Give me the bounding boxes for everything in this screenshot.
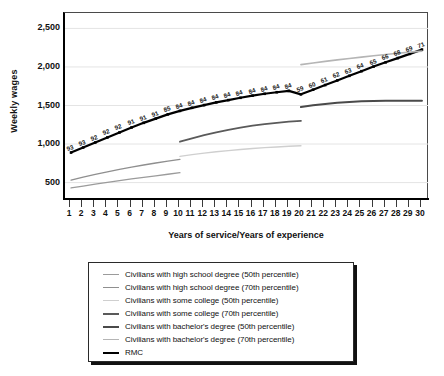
chart-figure: Weekly wages 5001,0001,5002,0002,500 939… — [0, 0, 444, 376]
legend-label: Civilians with high school degree (50th … — [125, 270, 299, 279]
x-tick-label: 2 — [79, 208, 84, 218]
x-tick-mark — [372, 200, 373, 207]
x-tick-label: 11 — [186, 208, 195, 218]
x-tick-mark — [347, 200, 348, 207]
legend-label: Civilians with high school degree (70th … — [125, 283, 299, 292]
legend-item[interactable]: Civilians with high school degree (70th … — [89, 281, 353, 294]
series-marker — [215, 101, 218, 104]
series-line — [71, 173, 180, 188]
x-tick-mark — [154, 200, 155, 207]
series-marker — [300, 93, 303, 96]
x-tick-label: 24 — [343, 208, 352, 218]
x-tick-mark — [202, 200, 203, 207]
series-marker — [360, 70, 363, 73]
x-tick-label: 19 — [282, 208, 291, 218]
legend-item[interactable]: Civilians with high school degree (50th … — [89, 268, 353, 281]
series-marker — [251, 94, 254, 97]
legend-item[interactable]: Civilians with bachelor's degree (70th p… — [89, 333, 353, 346]
x-tick-mark — [384, 200, 385, 207]
legend-item[interactable]: Civilians with some college (70th percen… — [89, 307, 353, 320]
series-marker — [312, 88, 315, 91]
x-tick-mark — [396, 200, 397, 207]
legend-label: RMC — [125, 348, 143, 357]
legend-label: Civilians with bachelor's degree (50th p… — [125, 322, 294, 331]
x-tick-mark — [408, 200, 409, 207]
series-marker — [324, 84, 327, 87]
plot-area: 9393929292919191858484848484848484848459… — [63, 12, 428, 198]
x-tick-mark — [117, 200, 118, 207]
legend-item[interactable]: Civilians with some college (50th percen… — [89, 294, 353, 307]
x-tick-label: 21 — [306, 208, 315, 218]
x-tick-mark — [93, 200, 94, 207]
x-tick-mark — [214, 200, 215, 207]
series-marker — [179, 110, 182, 113]
x-tick-label: 7 — [139, 208, 144, 218]
x-tick-label: 18 — [270, 208, 279, 218]
series-marker — [396, 57, 399, 60]
x-axis-tick-labels: 1234567891011121314151617181920212223242… — [63, 208, 429, 222]
x-tick-label: 14 — [222, 208, 231, 218]
series-marker — [191, 107, 194, 110]
x-tick-mark — [275, 200, 276, 207]
legend-item[interactable]: Civilians with bachelor's degree (50th p… — [89, 320, 353, 333]
x-tick-label: 26 — [367, 208, 376, 218]
legend-label: Civilians with some college (50th percen… — [125, 296, 278, 305]
x-tick-label: 13 — [210, 208, 219, 218]
x-tick-label: 28 — [391, 208, 400, 218]
series-marker — [130, 126, 133, 129]
y-tick-label: 1,000 — [14, 138, 60, 148]
legend-item[interactable]: RMC — [89, 346, 353, 359]
x-tick-mark — [238, 200, 239, 207]
x-tick-label: 29 — [403, 208, 412, 218]
x-tick-label: 8 — [151, 208, 156, 218]
data-point-label: 65 — [368, 57, 377, 66]
x-tick-mark — [251, 200, 252, 207]
data-point-label: 84 — [247, 86, 256, 95]
x-tick-mark — [299, 200, 300, 207]
series-svg — [65, 13, 428, 198]
x-tick-label: 6 — [127, 208, 132, 218]
x-tick-mark — [263, 200, 264, 207]
x-tick-mark — [287, 200, 288, 207]
legend-line-icon — [103, 339, 119, 340]
x-tick-label: 25 — [355, 208, 364, 218]
legend-label: Civilians with some college (70th percen… — [125, 309, 278, 318]
x-tick-label: 30 — [415, 208, 424, 218]
series-line — [180, 121, 301, 142]
x-tick-label: 12 — [197, 208, 206, 218]
x-tick-label: 20 — [294, 208, 303, 218]
series-marker — [288, 90, 291, 93]
x-tick-label: 23 — [331, 208, 340, 218]
x-tick-label: 1 — [67, 208, 72, 218]
x-tick-mark — [130, 200, 131, 207]
series-line — [180, 146, 301, 157]
x-tick-label: 22 — [318, 208, 327, 218]
series-marker — [348, 75, 351, 78]
chart-legend: Civilians with high school degree (50th … — [88, 262, 354, 362]
x-tick-mark — [190, 200, 191, 207]
legend-line-icon — [103, 274, 119, 275]
x-tick-mark — [311, 200, 312, 207]
series-marker — [263, 92, 266, 95]
legend-line-icon — [103, 287, 119, 288]
x-tick-label: 4 — [103, 208, 108, 218]
y-tick-label: 2,500 — [14, 22, 60, 32]
series-marker — [94, 141, 97, 144]
x-axis-tick-marks — [63, 200, 429, 208]
series-marker — [384, 61, 387, 64]
x-tick-mark — [81, 200, 82, 207]
series-line — [71, 159, 180, 180]
y-axis-tick-labels: 5001,0001,5002,0002,500 — [14, 12, 60, 198]
x-tick-label: 10 — [173, 208, 182, 218]
x-tick-mark — [69, 200, 70, 207]
x-tick-mark — [359, 200, 360, 207]
x-tick-label: 16 — [246, 208, 255, 218]
chart-plot-region: Weekly wages 5001,0001,5002,0002,500 939… — [0, 0, 444, 250]
x-axis-title: Years of service/Years of experience — [63, 230, 429, 240]
series-marker — [154, 117, 157, 120]
series-line — [301, 101, 422, 107]
x-tick-mark — [178, 200, 179, 207]
legend-line-icon — [103, 352, 119, 354]
x-tick-mark — [226, 200, 227, 207]
legend-line-icon — [103, 300, 119, 301]
